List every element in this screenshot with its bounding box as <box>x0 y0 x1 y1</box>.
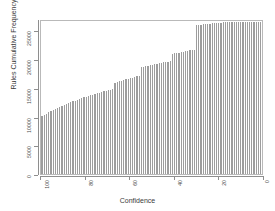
bar <box>214 23 215 174</box>
bar <box>48 112 49 174</box>
bar <box>262 22 263 174</box>
bar <box>170 61 171 174</box>
x-axis-tick-label: 60 <box>132 180 138 186</box>
bar <box>176 53 177 174</box>
bar <box>44 115 45 174</box>
bar <box>212 23 213 174</box>
bar <box>167 62 168 174</box>
bar <box>258 22 259 174</box>
bar <box>240 22 241 174</box>
bar <box>187 51 188 174</box>
x-axis-tick <box>218 176 219 180</box>
bar <box>114 83 115 174</box>
bar <box>77 100 78 174</box>
bar <box>59 107 60 174</box>
bar <box>61 106 62 174</box>
bar <box>117 82 118 174</box>
bar <box>119 81 120 174</box>
bar <box>234 22 235 174</box>
bar <box>50 111 51 174</box>
bar <box>46 114 47 174</box>
bar <box>152 65 153 174</box>
bar <box>147 66 148 174</box>
bar <box>154 64 155 174</box>
bar <box>132 78 133 174</box>
bar <box>101 92 102 174</box>
x-axis-tick-label: 100 <box>44 180 50 189</box>
y-axis-tick-label: 10000 <box>26 118 32 133</box>
bar <box>225 22 226 174</box>
bar <box>229 22 230 174</box>
bar <box>159 63 160 174</box>
x-axis-tick-label: 0 <box>264 180 270 183</box>
bar <box>181 52 182 174</box>
bar <box>163 62 164 174</box>
bar <box>70 102 71 174</box>
bar <box>194 50 195 174</box>
bar <box>75 101 76 174</box>
bar <box>200 25 201 174</box>
bar <box>209 24 210 174</box>
bar <box>97 93 98 174</box>
x-axis-tick-label: 40 <box>177 180 183 186</box>
plot-area <box>40 20 263 175</box>
bar <box>150 65 151 174</box>
bar <box>106 91 107 174</box>
bar <box>68 103 69 174</box>
bar <box>145 66 146 174</box>
y-axis-tick-label: 0 <box>26 175 32 178</box>
y-axis-tick-label: 15000 <box>26 89 32 104</box>
bar <box>218 23 219 174</box>
bar <box>196 25 197 174</box>
bar <box>198 25 199 174</box>
y-axis-tick <box>34 31 38 32</box>
bar <box>90 95 91 174</box>
bar <box>260 22 261 174</box>
bar <box>72 101 73 174</box>
bar <box>207 24 208 174</box>
bar <box>236 22 237 174</box>
y-axis-tick <box>34 175 38 176</box>
bar <box>205 24 206 174</box>
x-axis-title: Confidence <box>0 197 275 204</box>
bar <box>178 53 179 174</box>
bar <box>103 91 104 174</box>
y-axis-tick <box>34 60 38 61</box>
bar <box>227 22 228 174</box>
bar <box>220 23 221 174</box>
bar <box>165 62 166 174</box>
bar <box>123 80 124 174</box>
bar <box>128 79 129 174</box>
bar <box>141 67 142 174</box>
bar <box>139 76 140 174</box>
bar <box>247 22 248 174</box>
bar <box>174 53 175 174</box>
bar <box>94 94 95 174</box>
y-axis-title: Rules Cumulative Frequency <box>10 0 17 115</box>
bar <box>81 98 82 174</box>
bar <box>130 78 131 174</box>
bar <box>64 105 65 174</box>
bar <box>249 22 250 174</box>
bar <box>79 99 80 174</box>
bar <box>121 81 122 174</box>
bar <box>88 96 89 174</box>
x-axis-tick <box>85 176 86 180</box>
bar <box>156 64 157 174</box>
bar <box>251 22 252 174</box>
bar <box>242 22 243 174</box>
bar <box>183 52 184 174</box>
bar <box>161 63 162 174</box>
y-axis-tick <box>34 118 38 119</box>
x-axis-tick-label: 80 <box>87 180 93 186</box>
bar <box>134 77 135 174</box>
bar <box>143 67 144 174</box>
bar <box>110 90 111 174</box>
bar <box>253 22 254 174</box>
y-axis-tick <box>34 146 38 147</box>
bar <box>256 22 257 174</box>
x-axis-tick-label: 20 <box>221 180 227 186</box>
x-axis-tick <box>129 176 130 180</box>
bar <box>192 50 193 174</box>
bar-series <box>41 21 262 174</box>
